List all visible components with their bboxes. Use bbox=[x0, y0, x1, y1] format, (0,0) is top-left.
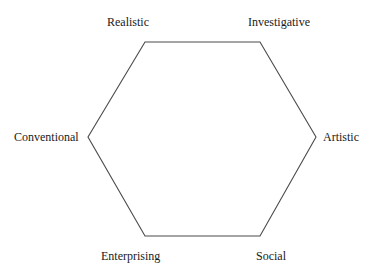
riasec-hexagon-diagram: Realistic Investigative Artistic Social … bbox=[0, 0, 370, 270]
label-artistic: Artistic bbox=[323, 130, 359, 144]
label-conventional: Conventional bbox=[14, 130, 79, 144]
label-enterprising: Enterprising bbox=[101, 249, 160, 263]
label-realistic: Realistic bbox=[107, 15, 149, 29]
label-investigative: Investigative bbox=[248, 15, 310, 29]
hexagon-outline bbox=[88, 42, 316, 236]
label-social: Social bbox=[256, 249, 286, 263]
